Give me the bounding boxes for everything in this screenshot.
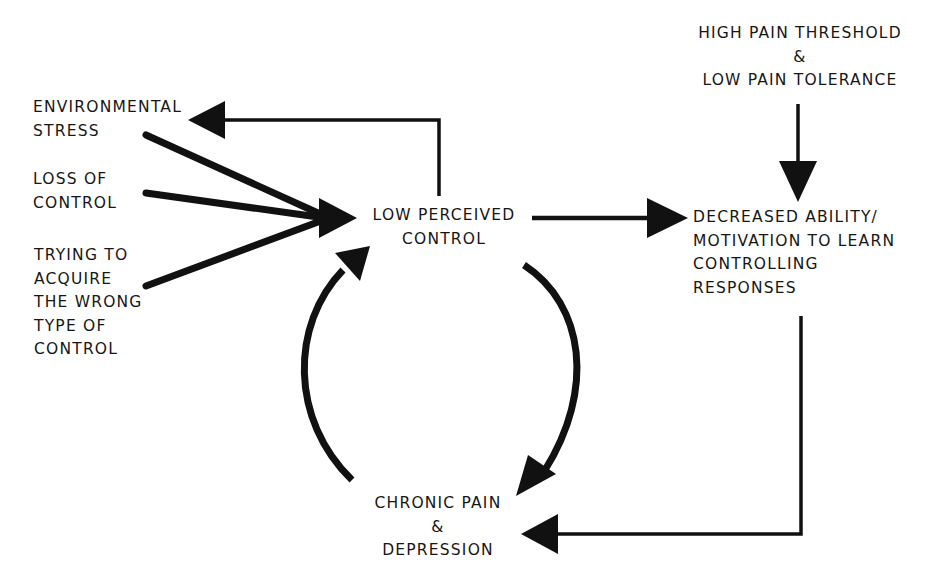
node-line: LOW PAIN TOLERANCE <box>690 69 910 93</box>
node-line: RESPONSES <box>693 277 895 301</box>
arrowhead-down-into-decreased <box>779 161 817 202</box>
node-loss-of-control: LOSS OF CONTROL <box>33 168 117 215</box>
node-line: THE WRONG <box>34 291 143 315</box>
node-line: DECREASED ABILITY/ <box>693 206 895 230</box>
edge-control-to-chronic-arc <box>524 265 577 470</box>
edge-decreased-to-chronic <box>557 316 801 534</box>
node-line: CHRONIC PAIN <box>363 492 513 516</box>
edge-wrong-to-control <box>146 222 318 286</box>
node-line: CONTROLLING <box>693 253 895 277</box>
node-line: STRESS <box>33 120 182 144</box>
node-decreased-ability: DECREASED ABILITY/ MOTIVATION TO LEARN C… <box>693 206 895 300</box>
node-line: CONTROL <box>33 192 117 216</box>
node-line: CONTROL <box>34 338 143 362</box>
node-low-perceived-control: LOW PERCEIVED CONTROL <box>364 204 524 251</box>
arrowhead-into-control <box>319 198 357 238</box>
arrowhead-into-decreased <box>647 198 688 238</box>
node-line: & <box>363 516 513 540</box>
node-line: CONTROL <box>364 228 524 252</box>
node-pain-threshold-tolerance: HIGH PAIN THRESHOLD & LOW PAIN TOLERANCE <box>690 22 910 93</box>
arrowhead-into-environmental <box>188 101 225 139</box>
node-wrong-type-of-control: TRYING TO ACQUIRE THE WRONG TYPE OF CONT… <box>34 244 143 362</box>
edge-chronic-to-control-arc <box>304 270 352 480</box>
node-chronic-pain-depression: CHRONIC PAIN & DEPRESSION <box>363 492 513 563</box>
node-line: ACQUIRE <box>34 268 143 292</box>
node-line: MOTIVATION TO LEARN <box>693 230 895 254</box>
node-line: LOSS OF <box>33 168 117 192</box>
edge-environmental-to-control <box>146 135 318 213</box>
arrowhead-into-chronic-right <box>521 514 558 554</box>
diagram-canvas: ENVIRONMENTAL STRESS LOSS OF CONTROL TRY… <box>0 0 933 586</box>
node-line: & <box>690 46 910 70</box>
node-line: ENVIRONMENTAL <box>33 96 182 120</box>
node-line: DEPRESSION <box>363 539 513 563</box>
node-environmental-stress: ENVIRONMENTAL STRESS <box>33 96 182 143</box>
node-line: HIGH PAIN THRESHOLD <box>690 22 910 46</box>
node-line: TRYING TO <box>34 244 143 268</box>
node-line: LOW PERCEIVED <box>364 204 524 228</box>
node-line: TYPE OF <box>34 315 143 339</box>
